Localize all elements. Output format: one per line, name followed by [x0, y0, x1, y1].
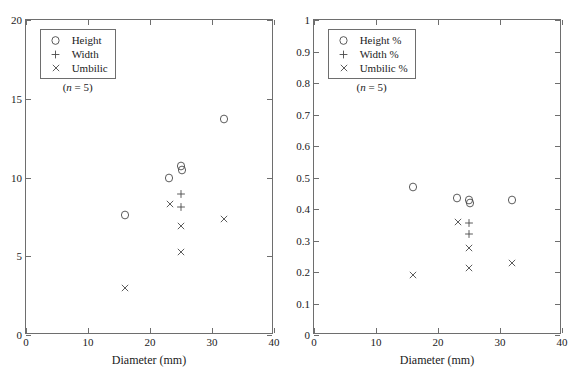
data-point-umbilic — [220, 215, 228, 223]
legend-entry: Width — [46, 47, 108, 61]
x-tick-bottom — [26, 328, 27, 333]
panel-right: 00.10.20.30.40.50.60.70.80.91010203040 D… — [288, 0, 576, 387]
x-tick-label: 10 — [371, 337, 382, 348]
data-point-width — [465, 230, 474, 239]
plot-box-right: 00.10.20.30.40.50.60.70.80.91010203040 D… — [313, 19, 561, 334]
y-tick-label: 0.9 — [296, 46, 310, 57]
data-point-umbilic — [454, 218, 462, 226]
plus-marker-icon — [46, 50, 66, 59]
x-tick-top — [150, 20, 151, 25]
cross-marker-icon — [334, 64, 354, 72]
x-tick-label: 30 — [495, 337, 506, 348]
x-tick-top — [212, 20, 213, 25]
data-point-height — [508, 195, 517, 204]
legend-label: Width % — [354, 48, 399, 60]
x-tick-bottom — [88, 328, 89, 333]
y-tick-right — [555, 241, 560, 242]
legend-label: Width — [66, 48, 99, 60]
data-point-height — [409, 182, 418, 191]
legend-left: HeightWidthUmbilic(n = 5) — [40, 29, 116, 79]
legend-label: Umbilic — [66, 62, 108, 74]
y-tick-label: 0.2 — [296, 267, 310, 278]
x-axis-title-right: Diameter (mm) — [400, 353, 474, 368]
plot-box-left: 05101520010203040 Diameter (mm) HeightWi… — [25, 19, 273, 334]
data-point-width — [465, 219, 474, 228]
y-tick-left — [26, 99, 31, 100]
y-tick-right — [555, 209, 560, 210]
y-tick-label: 0.4 — [296, 204, 310, 215]
legend-entry: Umbilic % — [334, 61, 408, 75]
x-tick-bottom — [438, 328, 439, 333]
y-tick-left — [26, 256, 31, 257]
data-point-height — [177, 165, 186, 174]
data-point-umbilic — [121, 284, 129, 292]
y-tick-label: 0.1 — [296, 298, 310, 309]
data-point-height — [452, 193, 461, 202]
legend-sample-size-note: (n = 5) — [63, 81, 93, 93]
data-point-umbilic — [465, 244, 473, 252]
data-point-umbilic — [508, 259, 516, 267]
legend-label: Umbilic % — [354, 62, 408, 74]
y-tick-left — [314, 83, 319, 84]
y-tick-label: 5 — [17, 251, 23, 262]
y-tick-label: 15 — [11, 93, 22, 104]
y-tick-left — [314, 241, 319, 242]
x-tick-top — [314, 20, 315, 25]
y-tick-label: 0 — [17, 330, 23, 341]
y-tick-right — [267, 178, 272, 179]
data-point-height — [164, 174, 173, 183]
y-tick-label: 0.8 — [296, 78, 310, 89]
circle-marker-icon — [46, 36, 66, 45]
y-tick-left — [26, 178, 31, 179]
y-tick-right — [267, 99, 272, 100]
data-point-height — [466, 198, 475, 207]
y-tick-left — [314, 178, 319, 179]
plus-marker-icon — [334, 50, 354, 59]
data-point-umbilic — [409, 271, 417, 279]
x-tick-top — [562, 20, 563, 25]
y-tick-label: 20 — [11, 15, 22, 26]
x-tick-bottom — [562, 328, 563, 333]
y-tick-label: 1 — [305, 15, 311, 26]
y-tick-right — [267, 20, 272, 21]
y-tick-right — [555, 146, 560, 147]
data-point-umbilic — [177, 248, 185, 256]
data-point-width — [177, 202, 186, 211]
x-tick-top — [26, 20, 27, 25]
x-tick-top — [376, 20, 377, 25]
data-point-umbilic — [177, 222, 185, 230]
data-point-umbilic — [465, 264, 473, 272]
x-tick-bottom — [376, 328, 377, 333]
y-tick-right — [555, 52, 560, 53]
y-tick-right — [555, 115, 560, 116]
x-tick-bottom — [500, 328, 501, 333]
x-tick-label: 0 — [311, 337, 317, 348]
y-tick-label: 0.3 — [296, 235, 310, 246]
x-tick-top — [438, 20, 439, 25]
data-point-umbilic — [166, 200, 174, 208]
y-tick-label: 0.6 — [296, 141, 310, 152]
x-tick-bottom — [150, 328, 151, 333]
x-tick-label: 20 — [145, 337, 156, 348]
x-tick-label: 0 — [23, 337, 29, 348]
x-tick-label: 10 — [83, 337, 94, 348]
circle-marker-icon — [334, 36, 354, 45]
data-point-height — [220, 115, 229, 124]
x-tick-label: 40 — [269, 337, 280, 348]
y-tick-right — [555, 304, 560, 305]
y-tick-right — [555, 178, 560, 179]
data-point-width — [177, 190, 186, 199]
y-tick-left — [314, 115, 319, 116]
legend-label: Height % — [354, 34, 402, 46]
legend-entry: Umbilic — [46, 61, 108, 75]
y-tick-right — [267, 256, 272, 257]
x-axis-title-left: Diameter (mm) — [112, 353, 186, 368]
x-tick-bottom — [212, 328, 213, 333]
x-tick-label: 40 — [557, 337, 568, 348]
x-tick-top — [274, 20, 275, 25]
legend-sample-size-note: (n = 5) — [357, 81, 387, 93]
legend-entry: Width % — [334, 47, 408, 61]
x-tick-bottom — [314, 328, 315, 333]
figure-two-panel-scatter: 05101520010203040 Diameter (mm) HeightWi… — [0, 0, 576, 387]
legend-entry: Height % — [334, 33, 408, 47]
